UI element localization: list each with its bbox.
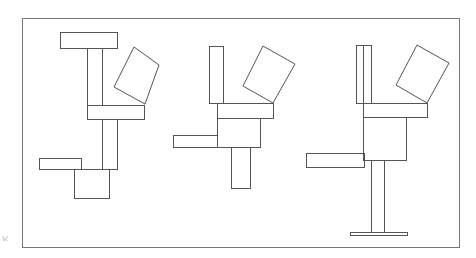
figure-1-middle-bar <box>88 106 145 120</box>
figure-2-lower-vertical <box>232 148 251 189</box>
figures-group <box>40 33 450 236</box>
figure-2-box <box>218 119 261 148</box>
figure-1-bottom-box <box>75 170 110 199</box>
figure-3-horizontal-bar <box>364 104 428 118</box>
diagram-canvas <box>0 0 476 258</box>
figure-3-left-bar <box>307 154 365 168</box>
figure-2 <box>174 46 296 189</box>
figure-2-tall-vertical <box>210 47 224 104</box>
figure-3-box <box>364 118 407 161</box>
figure-2-tilted-square <box>243 46 295 103</box>
figure-3-foot <box>351 233 408 236</box>
corner-mark: V. <box>2 234 9 243</box>
figure-1 <box>40 33 160 199</box>
figure-2-left-bar <box>174 136 218 148</box>
figure-1-top-bar <box>61 33 118 49</box>
outer-frame <box>23 19 460 248</box>
figure-2-horizontal-bar <box>218 104 274 119</box>
figure-1-lower-vertical <box>103 120 118 170</box>
figure-3-tilted-square <box>396 45 449 103</box>
figure-1-tilted-square <box>114 47 159 104</box>
figure-3 <box>307 45 450 236</box>
figure-3-stem <box>372 161 385 233</box>
figure-1-left-bar <box>40 159 82 170</box>
figure-1-upper-vertical <box>88 49 103 106</box>
